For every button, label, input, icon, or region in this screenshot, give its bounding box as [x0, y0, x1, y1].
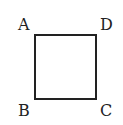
square-abcd	[34, 34, 97, 100]
vertex-label-c: C	[100, 103, 112, 119]
vertex-label-b: B	[18, 103, 30, 119]
vertex-label-a: A	[18, 17, 30, 33]
vertex-label-d: D	[100, 17, 113, 33]
